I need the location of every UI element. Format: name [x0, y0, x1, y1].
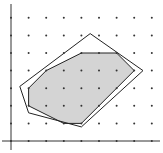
- lattice-point: [63, 122, 65, 124]
- lattice-point: [45, 122, 47, 124]
- lattice-point: [63, 52, 65, 54]
- lattice-point: [80, 17, 82, 19]
- lattice-point: [133, 34, 135, 36]
- lattice-point: [151, 70, 153, 72]
- lattice-point: [133, 87, 135, 89]
- lattice-point: [133, 105, 135, 107]
- lattice-point: [151, 34, 153, 36]
- lattice-point: [63, 105, 65, 107]
- lattice-diagram: [0, 0, 163, 153]
- lattice-point: [80, 122, 82, 124]
- lattice-point: [133, 70, 135, 72]
- lattice-point: [80, 87, 82, 89]
- lattice-point: [98, 140, 100, 142]
- lattice-point: [10, 87, 12, 89]
- lattice-point: [80, 34, 82, 36]
- lattice-point: [98, 105, 100, 107]
- lattice-point: [63, 70, 65, 72]
- lattice-point: [80, 140, 82, 142]
- lattice-point: [45, 34, 47, 36]
- lattice-point: [63, 34, 65, 36]
- lattice-point: [116, 17, 118, 19]
- lattice-point: [116, 52, 118, 54]
- lattice-point: [10, 70, 12, 72]
- lattice-point: [151, 87, 153, 89]
- lattice-point: [116, 70, 118, 72]
- lattice-point: [133, 122, 135, 124]
- lattice-point: [45, 140, 47, 142]
- lattice-point: [80, 70, 82, 72]
- lattice-point: [63, 87, 65, 89]
- lattice-point: [10, 105, 12, 107]
- lattice-point: [133, 17, 135, 19]
- lattice-point: [28, 17, 30, 19]
- lattice-point: [116, 122, 118, 124]
- lattice-point: [151, 52, 153, 54]
- lattice-point: [151, 122, 153, 124]
- lattice-point: [151, 105, 153, 107]
- lattice-point: [116, 140, 118, 142]
- lattice-point: [28, 52, 30, 54]
- lattice-point: [28, 34, 30, 36]
- lattice-point: [28, 140, 30, 142]
- lattice-point: [98, 34, 100, 36]
- lattice-point: [45, 105, 47, 107]
- lattice-point: [45, 52, 47, 54]
- lattice-point: [151, 17, 153, 19]
- lattice-point: [45, 87, 47, 89]
- lattice-point: [98, 87, 100, 89]
- lattice-point: [133, 52, 135, 54]
- lattice-point: [151, 140, 153, 142]
- lattice-point: [98, 17, 100, 19]
- lattice-point: [10, 140, 12, 142]
- lattice-point: [10, 52, 12, 54]
- lattice-point: [133, 140, 135, 142]
- lattice-point: [63, 140, 65, 142]
- lattice-point: [10, 34, 12, 36]
- lattice-point: [80, 52, 82, 54]
- lattice-point: [45, 17, 47, 19]
- lattice-point: [116, 87, 118, 89]
- lattice-point: [45, 70, 47, 72]
- lattice-point: [116, 105, 118, 107]
- lattice-point: [80, 105, 82, 107]
- lattice-point: [98, 52, 100, 54]
- lattice-point: [28, 122, 30, 124]
- lattice-point: [28, 70, 30, 72]
- lattice-point: [98, 122, 100, 124]
- lattice-point: [10, 122, 12, 124]
- lattice-point: [98, 70, 100, 72]
- lattice-point: [116, 34, 118, 36]
- lattice-point: [10, 17, 12, 19]
- lattice-point: [28, 87, 30, 89]
- lattice-point: [28, 105, 30, 107]
- lattice-point: [63, 17, 65, 19]
